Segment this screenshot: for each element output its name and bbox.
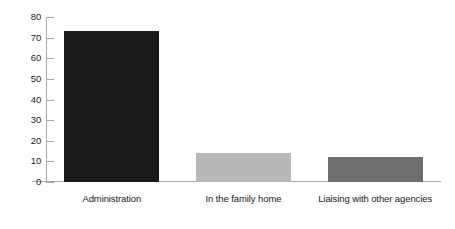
- y-axis-tick-label: 20: [17, 136, 41, 146]
- y-axis-tick-label: 30: [17, 115, 41, 125]
- x-axis-category-label: In the family home: [178, 194, 310, 204]
- y-axis-tick: [46, 182, 54, 183]
- x-axis-category-label: Liaising with other agencies: [309, 194, 441, 204]
- y-axis-tick-label: 80: [17, 12, 41, 22]
- bar: [64, 31, 159, 182]
- y-axis-tick-label: 0: [17, 177, 41, 187]
- bar: [196, 153, 291, 182]
- y-axis-tick-label: 10: [17, 157, 41, 167]
- x-axis-category-label: Administration: [46, 194, 178, 204]
- y-axis-tick-label: 60: [17, 54, 41, 64]
- bar-chart: 01020304050607080 AdministrationIn the f…: [0, 0, 455, 229]
- plot-area: [46, 17, 441, 182]
- y-axis-tick-label: 50: [17, 74, 41, 84]
- y-axis-tick-label: 40: [17, 95, 41, 105]
- y-axis-tick-label: 70: [17, 33, 41, 43]
- bar: [328, 157, 423, 182]
